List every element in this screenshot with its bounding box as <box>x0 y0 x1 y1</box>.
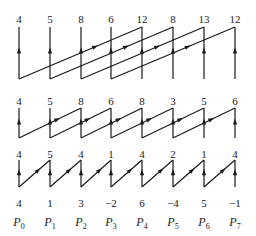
processor-label: P1 <box>38 215 62 234</box>
arrow-icon <box>79 47 83 53</box>
value-label: −2 <box>99 197 123 209</box>
arrow-icon <box>123 46 129 50</box>
prefix-sum-diagram: 4 5 8 6 12 8 13 12 4 5 8 6 8 3 5 6 4 5 4… <box>0 0 256 236</box>
arrow-icon <box>84 118 90 123</box>
processor-label: P5 <box>161 215 185 234</box>
value-label: 4 <box>223 148 247 160</box>
processor-label: P6 <box>192 215 216 234</box>
value-label: 4 <box>69 148 93 160</box>
value-label: 5 <box>38 13 62 25</box>
value-label: 8 <box>69 95 93 107</box>
value-label: 2 <box>161 148 185 160</box>
value-label: 6 <box>130 197 154 209</box>
processor-label: P0 <box>7 215 31 234</box>
arrow-icon <box>48 169 52 175</box>
arrow-icon <box>171 169 175 175</box>
arrow-icon <box>184 46 190 50</box>
arrow-icon <box>140 169 144 175</box>
arrow-icon <box>54 118 60 123</box>
value-label: 5 <box>192 95 216 107</box>
arrow-icon <box>171 119 175 125</box>
value-label: −4 <box>161 197 185 209</box>
processor-label: P2 <box>69 215 93 234</box>
value-label: 4 <box>7 95 31 107</box>
value-label: 3 <box>69 197 93 209</box>
value-label: 4 <box>7 197 31 209</box>
arrow-icon <box>140 47 144 53</box>
arrow-icon <box>17 47 21 53</box>
arrow-icon <box>208 118 214 123</box>
arrow-icon <box>202 47 206 53</box>
value-label: 5 <box>192 197 216 209</box>
arrow-icon <box>115 118 121 123</box>
processor-label: P4 <box>130 215 154 234</box>
arrow-icon <box>92 46 98 50</box>
arrow-icon <box>146 118 152 123</box>
diagonal-wire <box>19 160 50 187</box>
processor-label: P7 <box>223 215 247 234</box>
value-label: 1 <box>38 197 62 209</box>
arrow-icon <box>154 46 160 50</box>
arrow-icon <box>171 47 175 53</box>
arrow-icon <box>109 119 113 125</box>
processor-label: P3 <box>99 215 123 234</box>
diagonal-wire <box>204 160 235 187</box>
diagonal-wire <box>50 160 81 187</box>
value-label: 1 <box>99 148 123 160</box>
value-label: 12 <box>130 13 154 25</box>
value-label: 4 <box>130 148 154 160</box>
arrow-icon <box>233 169 237 175</box>
arrow-icon <box>233 119 237 125</box>
value-label: 6 <box>223 95 247 107</box>
value-label: −1 <box>223 197 247 209</box>
value-label: 1 <box>192 148 216 160</box>
value-label: 5 <box>38 148 62 160</box>
value-label: 4 <box>7 148 31 160</box>
value-label: 12 <box>223 13 247 25</box>
arrow-icon <box>79 169 83 175</box>
diagonal-wire <box>173 160 204 187</box>
arrow-icon <box>233 47 237 53</box>
arrow-icon <box>17 119 21 125</box>
arrow-icon <box>177 118 183 123</box>
value-label: 8 <box>161 13 185 25</box>
value-label: 4 <box>7 13 31 25</box>
value-label: 6 <box>99 13 123 25</box>
arrow-icon <box>202 169 206 175</box>
arrow-icon <box>140 119 144 125</box>
value-label: 5 <box>38 95 62 107</box>
diagonal-wire <box>81 160 111 187</box>
arrow-icon <box>48 47 52 53</box>
arrow-icon <box>109 47 113 53</box>
value-label: 13 <box>192 13 216 25</box>
arrow-icon <box>202 119 206 125</box>
value-label: 8 <box>69 13 93 25</box>
arrow-icon <box>48 119 52 125</box>
diagonal-wire <box>111 160 142 187</box>
value-label: 6 <box>99 95 123 107</box>
value-label: 8 <box>130 95 154 107</box>
diagonal-wire <box>142 160 173 187</box>
arrow-icon <box>109 169 113 175</box>
value-label: 3 <box>161 95 185 107</box>
arrow-icon <box>17 169 21 175</box>
